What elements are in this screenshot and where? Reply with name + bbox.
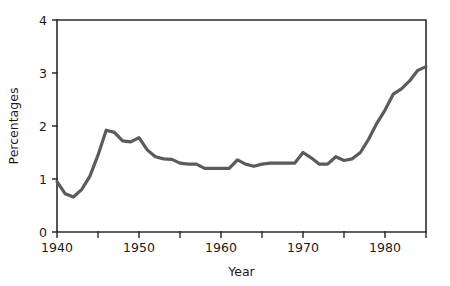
line-chart: 01234 19401950196019701980 Year Percenta… [0,0,450,286]
plot-frame [57,20,426,232]
y-axis-tick-labels: 01234 [39,13,47,240]
x-tick-label-1970: 1970 [287,240,319,255]
y-tick-label-3: 3 [39,66,47,81]
x-axis-title: Year [227,264,255,279]
x-tick-label-1950: 1950 [123,240,155,255]
x-tick-label-1960: 1960 [205,240,237,255]
y-tick-label-1: 1 [39,172,47,187]
y-tick-label-0: 0 [39,225,47,240]
x-tick-label-1940: 1940 [41,240,73,255]
chart-figure: 01234 19401950196019701980 Year Percenta… [0,0,450,286]
x-tick-label-1980: 1980 [369,240,401,255]
axis-frame [57,20,426,232]
x-axis-tick-labels: 19401950196019701980 [41,240,401,255]
y-tick-label-2: 2 [39,119,47,134]
y-axis-title: Percentages [6,88,21,165]
y-tick-label-4: 4 [39,13,47,28]
data-line-percentages [57,67,426,197]
data-series-group [57,67,426,197]
